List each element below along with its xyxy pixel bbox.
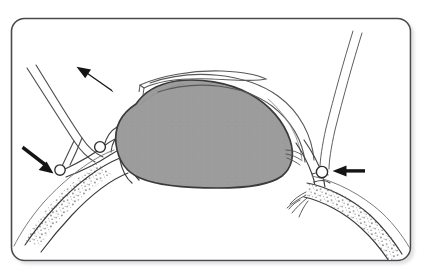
anatomical-diagram-canvas xyxy=(0,0,433,277)
clip-node-left-lower xyxy=(55,165,65,175)
clip-node-left-upper xyxy=(95,142,106,153)
figure-root: Surgical line drawing: grey ovoid mass w… xyxy=(0,0,433,277)
clip-node-right xyxy=(316,166,327,177)
